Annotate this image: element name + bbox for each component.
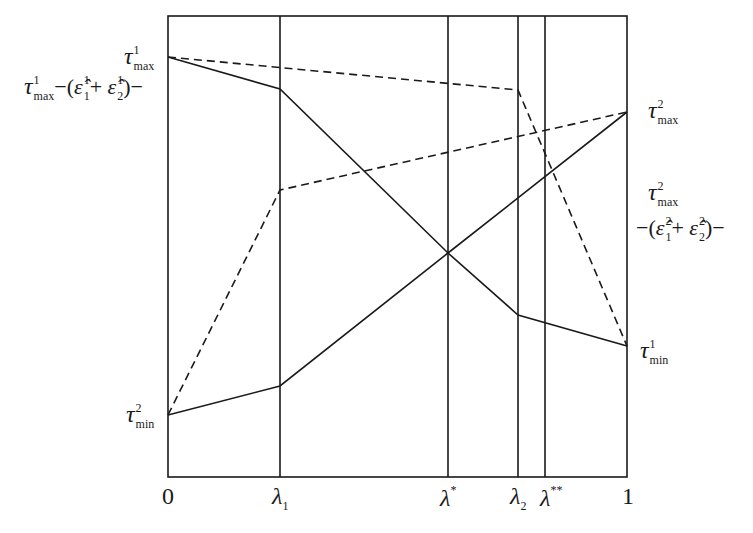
subscript: min [650, 353, 669, 367]
label-tau-max-2-minus-eps: −(ε̂21+ ε̂22)− [636, 215, 725, 243]
epsilon-hat: ε̂ [689, 215, 698, 240]
open-paren: −( [636, 215, 656, 240]
tau-symbol: τ [640, 337, 649, 363]
lambda-symbol: λ [272, 483, 282, 509]
subscript: max [134, 59, 155, 73]
series-dashed-increasing [168, 112, 627, 415]
lambda-symbol: λ [540, 485, 550, 511]
tick-label-lambda2: λ2 [510, 484, 526, 512]
tau-symbol: τ [648, 97, 657, 123]
tau-symbol: τ [648, 179, 657, 205]
lambda-symbol: λ [440, 485, 450, 511]
tick-label-one: 1 [622, 484, 634, 508]
tick-label-lambda-dstar: λ** [540, 484, 562, 510]
tau-symbol: τ [126, 401, 135, 427]
label-tau-max-2: τ2max [648, 98, 678, 126]
epsilon-hat: ε̂ [74, 74, 83, 99]
epsilon-hat: ε̂ [108, 74, 117, 99]
superscript: 1 [34, 73, 40, 87]
superscript: * [450, 483, 456, 497]
plus-sign: + [671, 215, 689, 240]
lambda-symbol: λ [510, 483, 520, 509]
subscript: 1 [282, 499, 288, 513]
close-paren: )− [123, 74, 143, 99]
series-solid-decreasing [168, 57, 627, 346]
epsilon-hat: ε̂ [656, 215, 665, 240]
tick-label-zero: 0 [162, 484, 174, 508]
label-tau-min-2: τ2min [126, 402, 154, 430]
close-paren: )− [705, 215, 725, 240]
subscript: max [658, 195, 679, 209]
label-tau-max-2-minus-top: τ2max [648, 180, 678, 208]
tau-symbol: τ [24, 73, 33, 99]
plot-frame [168, 16, 627, 477]
label-tau-max-1: τ1max [124, 44, 154, 72]
subscript: min [136, 417, 155, 431]
series-dashed-decreasing [168, 57, 627, 346]
superscript: 1 [134, 43, 140, 57]
subscript: max [658, 113, 679, 127]
plus-sign: + [90, 74, 108, 99]
superscript: 2 [136, 401, 142, 415]
tau-symbol: τ [124, 43, 133, 69]
superscript: 1 [650, 337, 656, 351]
tick-label-lambda1: λ1 [272, 484, 288, 512]
superscript: 2 [658, 179, 664, 193]
subscript: max [34, 89, 55, 103]
superscript: 2 [658, 97, 664, 111]
subscript: 2 [520, 499, 526, 513]
series-solid-increasing [168, 112, 627, 415]
label-tau-min-1: τ1min [640, 338, 668, 366]
superscript: ** [550, 483, 562, 497]
tick-label-lambda-star: λ* [440, 484, 456, 510]
open-paren: −( [54, 74, 74, 99]
label-tau-max-1-minus-eps: τ1max−(ε̂11+ ε̂12)− [24, 74, 143, 102]
